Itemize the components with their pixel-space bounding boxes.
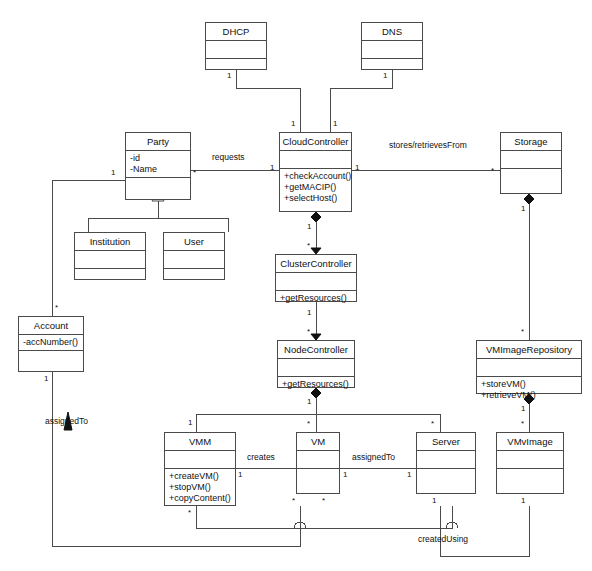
class-box-nodecontroller[interactable]: NodeController +getResources() <box>277 340 355 388</box>
class-attributes-cloudcontroller <box>280 151 351 169</box>
operation-row: +stopVM() <box>169 482 232 493</box>
class-box-vmvimage[interactable]: VMvImage <box>496 432 564 494</box>
class-operations-nodecontroller: +getResources() <box>278 377 354 392</box>
attribute-row: -id <box>130 153 187 164</box>
class-box-cloudcontroller[interactable]: CloudController +checkAccount() +getMACI… <box>279 132 352 212</box>
multiplicity-vmm-bottom: * <box>188 508 191 517</box>
class-box-storage[interactable]: Storage <box>500 132 562 194</box>
class-box-institution[interactable]: Institution <box>74 232 146 280</box>
class-box-vmimagerepository[interactable]: VMImageRepository +storeVM() +retrieveVM… <box>476 340 582 394</box>
multiplicity-cluster-top: * <box>307 241 310 250</box>
class-name-vmimagerepository: VMImageRepository <box>477 341 581 359</box>
multiplicity-vm-right-assigned: 1 <box>343 470 347 479</box>
class-attributes-nodecontroller <box>278 359 354 377</box>
multiplicity-vm-bottom-left: * <box>292 496 295 505</box>
multiplicity-storage-bottom: 1 <box>521 204 525 213</box>
class-box-account[interactable]: Account -accNumber() <box>18 316 84 372</box>
class-attributes-account: -accNumber() <box>19 335 83 351</box>
class-name-institution: Institution <box>75 233 145 251</box>
class-box-vm[interactable]: VM <box>296 432 340 494</box>
class-operations-vm <box>297 469 339 486</box>
operation-row: +getMACIP() <box>284 182 348 193</box>
class-name-cloudcontroller: CloudController <box>280 133 351 151</box>
class-name-vmm: VMM <box>165 433 235 451</box>
class-operations-institution <box>75 269 145 286</box>
class-attributes-party: -id -Name <box>126 151 190 178</box>
class-operations-vmm: +createVM() +stopVM() +copyContent() <box>165 469 235 506</box>
multiplicity-vm-top: * <box>307 419 310 428</box>
multiplicity-server-top: * <box>431 419 434 428</box>
class-attributes-dhcp <box>206 41 266 59</box>
class-name-nodecontroller: NodeController <box>278 341 354 359</box>
multiplicity-repo-bottom: 1 <box>521 404 525 413</box>
class-operations-dns <box>362 59 422 76</box>
multiplicity-storage-left: * <box>491 166 494 175</box>
association-label-assigned-to-vm: assignedTo <box>352 452 395 462</box>
multiplicity-server-bottom: 1 <box>432 496 436 505</box>
class-operations-vmvimage <box>497 469 563 486</box>
multiplicity-account-top: * <box>55 303 58 312</box>
class-operations-clustercontroller: +getResources() <box>276 291 356 306</box>
association-label-requests: requests <box>212 152 245 162</box>
multiplicity-party-left: 1 <box>111 168 115 177</box>
class-name-dns: DNS <box>362 23 422 41</box>
class-attributes-institution <box>75 251 145 269</box>
operation-row: +getResources() <box>282 379 351 390</box>
association-label-stores-retrieves: stores/retrievesFrom <box>389 140 467 150</box>
class-attributes-vmm <box>165 451 235 469</box>
class-operations-dhcp <box>206 59 266 76</box>
association-label-assigned-to-account: assignedTo <box>45 416 88 426</box>
class-attributes-user <box>164 251 224 269</box>
operation-row: +getResources() <box>280 293 353 304</box>
class-box-dns[interactable]: DNS <box>361 22 423 70</box>
class-box-dhcp[interactable]: DHCP <box>205 22 267 70</box>
class-name-vm: VM <box>297 433 339 451</box>
association-label-created-using: createdUsing <box>418 534 468 544</box>
class-attributes-vmimagerepository <box>477 359 581 377</box>
multiplicity-dhcp-bottom: 1 <box>227 71 231 80</box>
class-attributes-clustercontroller <box>276 273 356 291</box>
multiplicity-cc-left: 1 <box>270 163 274 172</box>
multiplicity-party-right: * <box>193 168 196 177</box>
multiplicity-cc-bottom: 1 <box>307 222 311 231</box>
multiplicity-cc-top-right: 1 <box>333 119 337 128</box>
multiplicity-cluster-bottom: 1 <box>307 308 311 317</box>
class-attributes-storage <box>501 151 561 169</box>
multiplicity-cc-right: 1 <box>355 163 359 172</box>
multiplicity-node-top: * <box>307 327 310 336</box>
operation-row: +checkAccount() <box>284 171 348 182</box>
class-name-dhcp: DHCP <box>206 23 266 41</box>
uml-class-diagram: DHCP DNS Party -id -Name CloudController… <box>0 0 592 571</box>
class-box-party[interactable]: Party -id -Name <box>125 132 191 200</box>
multiplicity-server-left: 1 <box>407 470 411 479</box>
operation-row: +storeVM() <box>481 379 578 390</box>
class-name-account: Account <box>19 317 83 335</box>
multiplicity-vmm-right: 1 <box>238 470 242 479</box>
class-operations-cloudcontroller: +checkAccount() +getMACIP() +selectHost(… <box>280 169 351 206</box>
association-label-creates: creates <box>247 452 275 462</box>
operation-row: +copyContent() <box>169 493 232 504</box>
operation-row: +retrieveVM() <box>481 390 578 401</box>
class-attributes-vmvimage <box>497 451 563 469</box>
class-name-party: Party <box>126 133 190 151</box>
attribute-row: -accNumber() <box>23 337 80 348</box>
class-attributes-dns <box>362 41 422 59</box>
class-box-user[interactable]: User <box>163 232 225 280</box>
class-name-vmvimage: VMvImage <box>497 433 563 451</box>
class-name-user: User <box>164 233 224 251</box>
class-name-storage: Storage <box>501 133 561 151</box>
class-box-vmm[interactable]: VMM +createVM() +stopVM() +copyContent() <box>164 432 236 506</box>
class-operations-vmimagerepository: +storeVM() +retrieveVM() <box>477 377 581 403</box>
class-attributes-vm <box>297 451 339 469</box>
class-box-server[interactable]: Server <box>416 432 476 494</box>
multiplicity-vmm-top: 1 <box>188 418 192 427</box>
class-box-clustercontroller[interactable]: ClusterController +getResources() <box>275 254 357 302</box>
multiplicity-vmvimage-bottom: 1 <box>521 496 525 505</box>
class-operations-storage <box>501 169 561 186</box>
composition-diamond-cloudcontroller <box>311 212 321 222</box>
multiplicity-vm-bottom-right: * <box>322 496 325 505</box>
multiplicity-cc-top-left: 1 <box>291 119 295 128</box>
class-operations-account <box>19 351 83 368</box>
class-name-clustercontroller: ClusterController <box>276 255 356 273</box>
class-attributes-server <box>417 451 475 469</box>
